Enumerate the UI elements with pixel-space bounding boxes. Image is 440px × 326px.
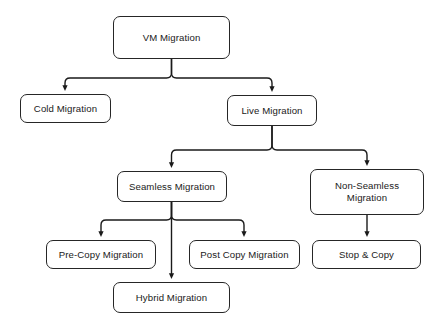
edge-seamless-to-pre-copy: [101, 202, 172, 234]
node-label-hybrid-migration: Hybrid Migration: [131, 292, 212, 304]
node-stop-and-copy[interactable]: Stop & Copy: [312, 240, 421, 269]
node-label-pre-copy-migration: Pre-Copy Migration: [54, 249, 148, 261]
node-cold-migration[interactable]: Cold Migration: [20, 94, 111, 123]
node-seamless-migration[interactable]: Seamless Migration: [117, 171, 227, 202]
node-hybrid-migration[interactable]: Hybrid Migration: [113, 282, 230, 313]
edge-seamless-to-post-copy: [172, 202, 245, 234]
node-post-copy-migration[interactable]: Post Copy Migration: [189, 240, 300, 269]
edge-live-to-non-seamless: [272, 126, 367, 163]
edge-live-to-seamless: [172, 126, 273, 165]
node-vm-migration[interactable]: VM Migration: [113, 16, 230, 59]
node-label-stop-and-copy: Stop & Copy: [334, 249, 399, 261]
node-label-vm-migration: VM Migration: [138, 32, 206, 44]
node-non-seamless-migration[interactable]: Non-Seamless Migration: [310, 169, 424, 215]
flowchart-canvas: VM Migration Cold Migration Live Migrati…: [0, 0, 440, 326]
node-pre-copy-migration[interactable]: Pre-Copy Migration: [46, 240, 156, 269]
node-label-non-seamless-migration: Non-Seamless Migration: [330, 180, 404, 204]
edge-vm-to-live: [172, 59, 273, 89]
edge-vm-to-cold: [65, 59, 172, 88]
node-label-live-migration: Live Migration: [236, 105, 307, 117]
node-live-migration[interactable]: Live Migration: [227, 95, 317, 126]
node-label-cold-migration: Cold Migration: [29, 103, 102, 115]
node-label-seamless-migration: Seamless Migration: [124, 181, 220, 193]
node-label-post-copy-migration: Post Copy Migration: [195, 249, 293, 261]
